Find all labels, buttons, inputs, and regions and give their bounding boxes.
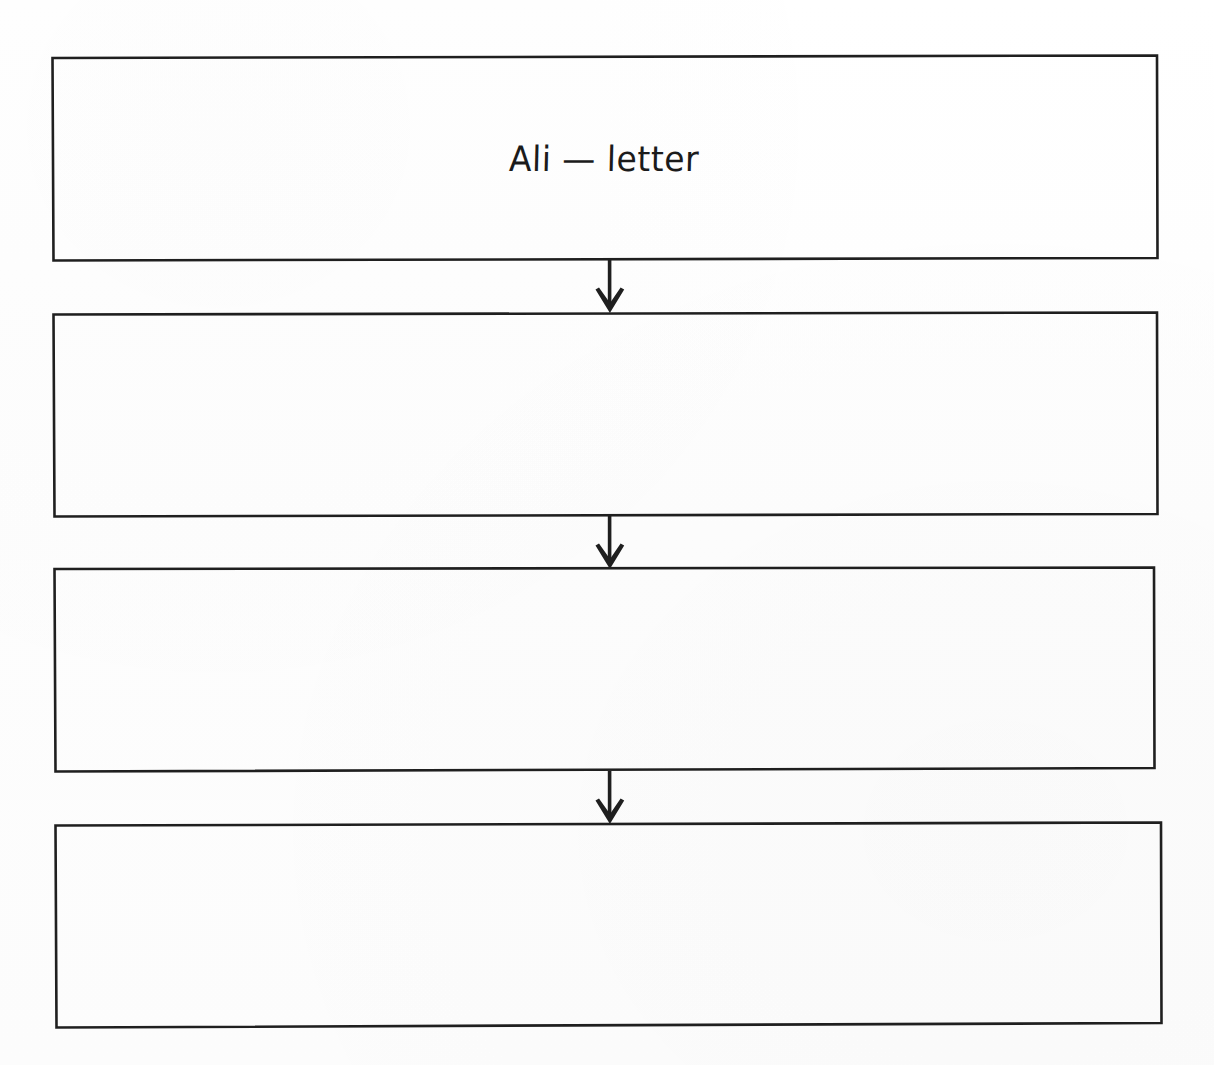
node-3-outline [53,567,1155,772]
flowchart-arrow-1 [586,259,634,315]
node-1-label: Ali — letter [509,137,700,178]
flowchart-arrow-3 [586,770,634,826]
arrow-down-icon [586,770,634,826]
arrow-down-icon [586,259,634,315]
flowchart-page: Ali — letter [0,0,1214,1065]
node-4-outline [54,822,1162,1028]
arrow-down-icon [586,515,634,571]
flowchart-node-2[interactable] [52,312,1158,517]
flowchart-node-1[interactable]: Ali — letter [51,55,1158,261]
flowchart-node-3[interactable] [53,567,1155,772]
flowchart-node-4[interactable] [54,822,1162,1028]
flowchart-arrow-2 [586,515,634,571]
node-2-outline [52,312,1158,517]
